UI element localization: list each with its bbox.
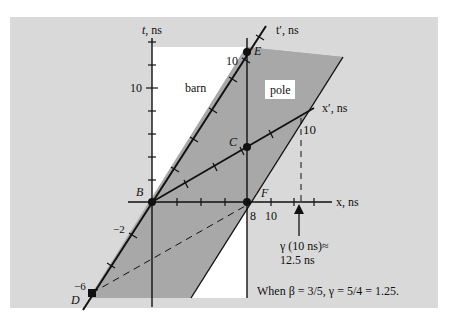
point-c <box>243 143 251 151</box>
label-c: C <box>229 135 238 149</box>
t-axis-label: t, ns <box>142 23 162 37</box>
label-f: F <box>260 186 269 200</box>
point-d <box>88 289 96 297</box>
tprime-tick-neg6-label: −6 <box>74 280 86 292</box>
x-tick-10-label: 10 <box>265 209 277 223</box>
point-f <box>243 198 251 206</box>
spacetime-diagram: t, ns x, ns t′, ns x′, ns barn pole B C … <box>0 0 449 332</box>
barn-label: barn <box>185 81 206 95</box>
x-axis-label: x, ns <box>336 195 359 209</box>
xprime-axis-label: x′, ns <box>322 101 348 115</box>
t-tick-10-label: 10 <box>130 81 142 95</box>
label-d: D <box>70 293 80 307</box>
tprime-axis-label: t′, ns <box>276 23 299 37</box>
gamma-annotation-line1: γ (10 ns)≈ <box>279 239 329 253</box>
gamma-annotation-line2: 12.5 ns <box>280 253 315 267</box>
label-b: B <box>136 185 144 199</box>
tprime-tick-neg2-label: −2 <box>113 223 125 235</box>
label-e: E <box>253 44 262 58</box>
caption: When β = 3/5, γ = 5/4 = 1.25. <box>257 284 399 298</box>
x-tick-8-label: 8 <box>250 209 256 223</box>
point-e <box>243 48 251 56</box>
xprime-tick-10-label: 10 <box>303 122 316 137</box>
point-b <box>148 198 156 206</box>
pole-label: pole <box>270 83 291 97</box>
tprime-tick-10-label: 10 <box>226 54 238 68</box>
